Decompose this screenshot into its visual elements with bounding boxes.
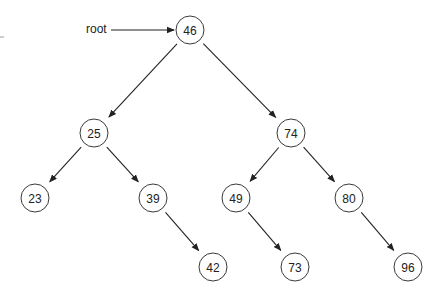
node-label: 73 (288, 261, 302, 275)
tree-node-74: 74 (277, 119, 305, 147)
edges-layer (50, 44, 394, 251)
tree-node-49: 49 (222, 184, 250, 212)
edge-n80-n96 (361, 212, 393, 250)
tree-node-23: 23 (21, 184, 49, 212)
edge-n25-n39 (107, 147, 138, 182)
tree-node-96: 96 (394, 253, 422, 281)
root-pointer-label: root (86, 22, 107, 36)
node-label: 96 (401, 261, 415, 275)
tree-node-73: 73 (281, 253, 309, 281)
node-label: 23 (28, 192, 42, 206)
edge-n39-n42 (166, 212, 199, 250)
edge-n46-n25 (109, 44, 177, 117)
node-label: 25 (87, 127, 101, 141)
tree-node-42: 42 (199, 253, 227, 281)
tree-diagram: root 46257423394980427396 (0, 0, 439, 293)
edge-n46-n74 (203, 44, 275, 118)
edge-n49-n73 (248, 212, 280, 250)
node-label: 42 (206, 261, 220, 275)
edge-n25-n23 (50, 147, 81, 182)
node-label: 39 (146, 192, 160, 206)
edge-n74-n80 (304, 147, 335, 181)
node-label: 46 (183, 24, 197, 38)
tree-node-25: 25 (80, 119, 108, 147)
tree-node-46: 46 (176, 16, 204, 44)
tree-node-80: 80 (335, 184, 363, 212)
nodes-layer: 46257423394980427396 (21, 16, 422, 281)
node-label: 49 (229, 192, 243, 206)
edge-n74-n49 (250, 148, 279, 182)
node-label: 74 (284, 127, 298, 141)
node-label: 80 (342, 192, 356, 206)
tree-node-39: 39 (139, 184, 167, 212)
